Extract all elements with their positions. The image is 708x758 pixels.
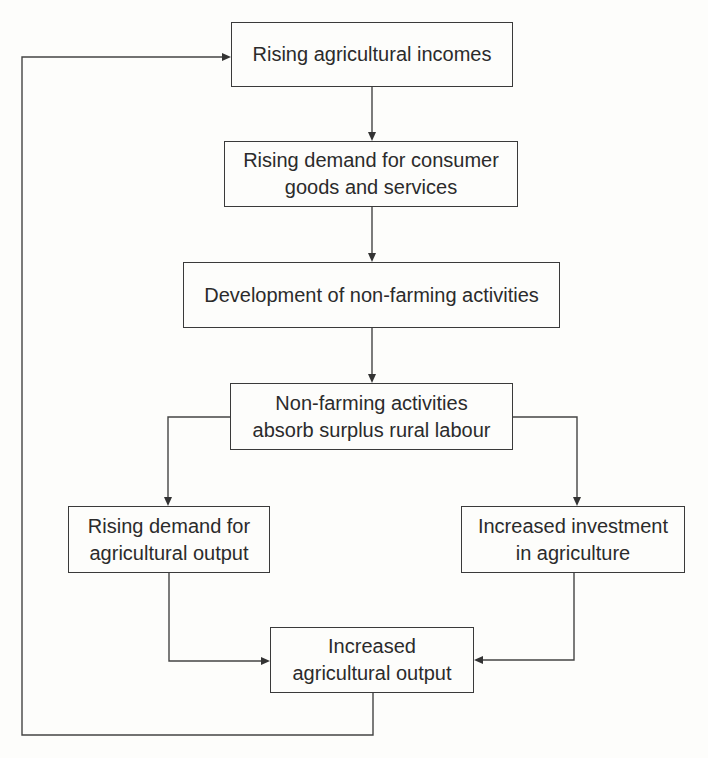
node-development-non-farming: Development of non-farming activities (183, 262, 560, 328)
arrowhead-icon (164, 497, 172, 506)
node-label: Rising demand for consumer goods and ser… (243, 147, 499, 201)
arrowhead-icon (261, 657, 270, 665)
node-label: Increased agricultural output (293, 633, 452, 687)
node-rising-demand-agri-output: Rising demand for agricultural output (68, 506, 270, 573)
node-label: Development of non-farming activities (204, 282, 539, 309)
node-non-farming-absorb-labour: Non-farming activities absorb surplus ru… (230, 383, 513, 450)
edge-n4-n5 (168, 417, 230, 499)
flowchart: Rising agricultural incomes Rising deman… (0, 0, 708, 758)
arrowhead-icon (368, 374, 376, 383)
edge-n6-n7 (481, 573, 574, 660)
node-rising-demand-consumer-goods: Rising demand for consumer goods and ser… (224, 141, 518, 207)
arrowhead-icon (573, 497, 581, 506)
node-label: Increased investment in agriculture (478, 513, 668, 567)
arrowhead-icon (474, 656, 483, 664)
node-rising-agricultural-incomes: Rising agricultural incomes (231, 22, 513, 87)
node-label: Rising agricultural incomes (253, 41, 492, 68)
arrowhead-icon (222, 53, 231, 61)
node-increased-investment: Increased investment in agriculture (461, 506, 685, 573)
arrowhead-icon (368, 253, 376, 262)
node-label: Rising demand for agricultural output (88, 513, 250, 567)
edge-n4-n6 (513, 417, 577, 499)
edge-n5-n7 (169, 573, 263, 661)
node-increased-agri-output: Increased agricultural output (270, 627, 474, 693)
arrowhead-icon (368, 132, 376, 141)
node-label: Non-farming activities absorb surplus ru… (253, 390, 491, 444)
